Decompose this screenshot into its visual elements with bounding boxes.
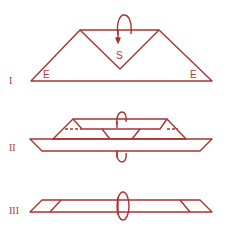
folding-diagram (0, 0, 229, 235)
figure-1-numeral: I (9, 76, 12, 86)
figure-3-numeral: III (9, 206, 19, 216)
label-s: S (116, 51, 123, 61)
figure-3-shape (30, 200, 212, 212)
label-e-right: E (190, 70, 197, 80)
figure-2-shape (30, 119, 212, 151)
label-e-left: E (43, 70, 50, 80)
rotation-arrow-icon (116, 15, 131, 43)
figure-2-numeral: II (9, 143, 16, 153)
rotation-arrow-icon (117, 192, 129, 220)
